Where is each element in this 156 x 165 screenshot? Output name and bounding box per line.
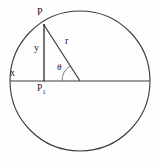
label-angle-theta: θ [57,63,61,72]
label-point-p: P [37,7,43,17]
point-p-marker [43,24,45,26]
circle-diagram-canvas [0,0,156,165]
geometry-figure: P y r x P1 θ [0,0,156,165]
angle-arc [62,66,71,81]
radius-line [44,25,80,81]
label-radius: r [65,36,68,46]
label-horizontal-leg: x [10,68,15,78]
label-foot-point: P1 [37,84,46,96]
label-vertical-leg: y [34,43,39,53]
label-foot-point-subscript: 1 [42,88,46,96]
